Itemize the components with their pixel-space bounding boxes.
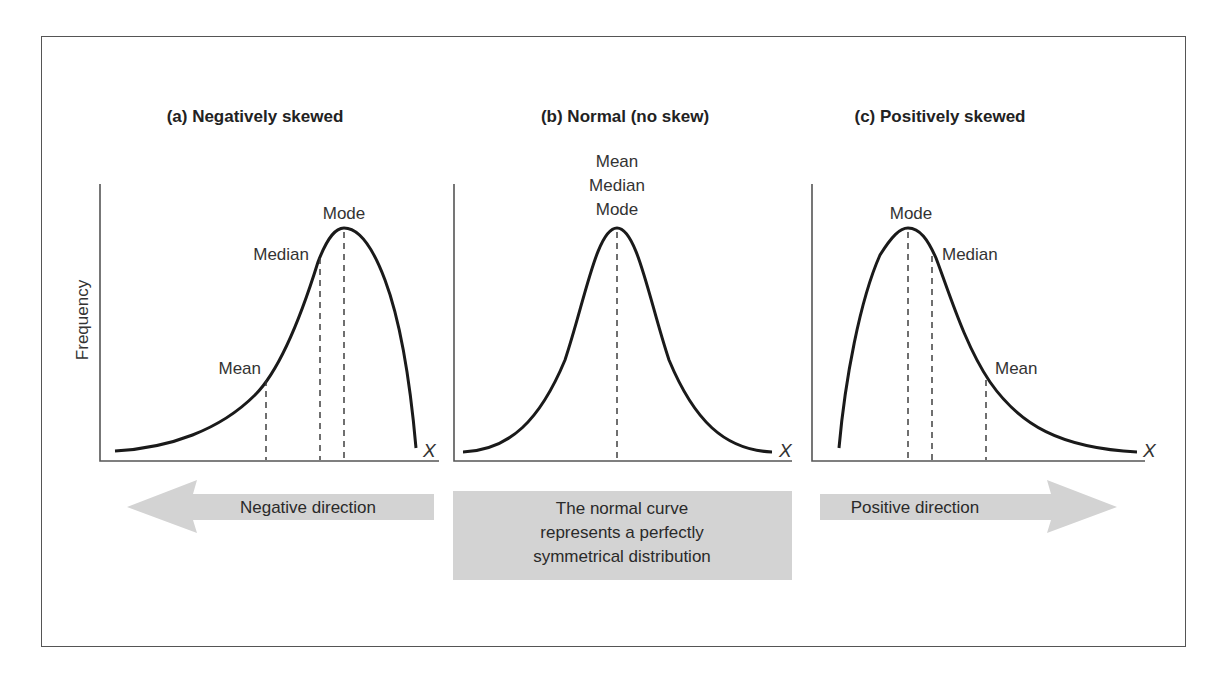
panel-b-axes <box>454 184 792 461</box>
panel-b-mode-label: Mode <box>596 200 639 219</box>
positive-direction-label: Positive direction <box>851 498 980 517</box>
panel-c-axes <box>812 184 1145 461</box>
panel-a-axes <box>100 184 439 461</box>
panel-a-title: (a) Negatively skewed <box>167 107 344 126</box>
skewness-diagram: (a) Negatively skewed (b) Normal (no ske… <box>0 0 1226 677</box>
panel-b: Mean Median Mode X <box>454 152 793 461</box>
panel-b-median-label: Median <box>589 176 645 195</box>
panel-a-x-label: X <box>422 440 437 461</box>
panel-c-mode-label: Mode <box>890 204 933 223</box>
panel-a-mean-label: Mean <box>218 359 261 378</box>
panel-c-title: (c) Positively skewed <box>854 107 1025 126</box>
panel-c: Mode Median Mean X <box>812 184 1157 461</box>
panel-b-title: (b) Normal (no skew) <box>541 107 709 126</box>
panel-c-mean-label: Mean <box>995 359 1038 378</box>
note-line-3: symmetrical distribution <box>533 547 711 566</box>
panel-c-x-label: X <box>1142 440 1157 461</box>
panel-b-x-label: X <box>778 440 793 461</box>
y-axis-label: Frequency <box>73 279 92 360</box>
note-line-2: represents a perfectly <box>540 523 704 542</box>
panel-a: Mean Median Mode X <box>100 184 439 461</box>
panel-b-mean-label: Mean <box>596 152 639 171</box>
note-line-1: The normal curve <box>556 499 688 518</box>
panel-a-median-label: Median <box>253 245 309 264</box>
panel-a-mode-label: Mode <box>323 204 366 223</box>
panel-c-median-label: Median <box>942 245 998 264</box>
panel-b-curve <box>463 228 772 452</box>
negative-direction-label: Negative direction <box>240 498 376 517</box>
